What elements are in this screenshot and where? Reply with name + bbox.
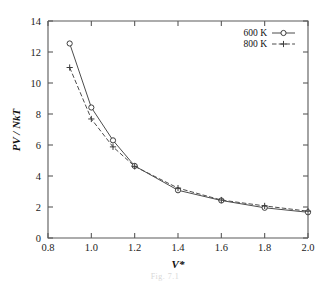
pv-nkt-vs-vstar-chart: 0.81.01.21.41.61.82.0 02468101214 600 K8… [0, 0, 330, 287]
data-point-marker-plus [280, 41, 286, 47]
y-tick-label: 10 [31, 78, 42, 89]
legend-label-800-k: 800 K [244, 39, 268, 49]
x-tick-label: 1.2 [128, 242, 141, 253]
figure-caption: Fig. 7.1 [0, 272, 330, 281]
x-axis-label: V* [172, 258, 185, 270]
x-tick-label: 1.8 [258, 242, 271, 253]
x-tick-label: 1.6 [215, 242, 228, 253]
x-tick-label: 1.4 [171, 242, 185, 253]
y-tick-label: 0 [36, 233, 41, 244]
series-800-k [67, 64, 312, 214]
data-point-marker-circle [281, 30, 286, 35]
data-point-marker-circle [89, 105, 94, 110]
y-axis-label: PV / NkT [10, 107, 22, 151]
data-point-marker-circle [110, 138, 115, 143]
series-line [70, 43, 308, 212]
data-point-marker-circle [67, 41, 72, 46]
x-tick-label: 1.0 [85, 242, 98, 253]
x-axis-ticks [48, 21, 308, 238]
data-point-marker-plus [67, 64, 73, 70]
legend-label-600-k: 600 K [244, 28, 268, 38]
y-tick-label: 2 [36, 202, 41, 213]
series-line [70, 68, 308, 212]
x-tick-label: 2.0 [301, 242, 314, 253]
y-tick-label: 12 [31, 47, 42, 58]
y-tick-label: 6 [36, 140, 41, 151]
data-point-marker-plus [88, 116, 94, 122]
y-tick-label: 4 [36, 171, 42, 182]
y-tick-label: 8 [36, 109, 41, 120]
chart-legend: 600 K800 K [244, 28, 296, 49]
series-600-k [67, 41, 311, 215]
plot-axes [48, 21, 308, 238]
x-axis-tick-labels: 0.81.01.21.41.61.82.0 [41, 242, 314, 253]
figure-container: 0.81.01.21.41.61.82.0 02468101214 600 K8… [0, 0, 330, 287]
x-tick-label: 0.8 [41, 242, 54, 253]
data-series-group [67, 41, 312, 215]
y-tick-label: 14 [31, 16, 42, 27]
y-axis-ticks [48, 21, 308, 238]
y-axis-tick-labels: 02468101214 [31, 16, 42, 244]
